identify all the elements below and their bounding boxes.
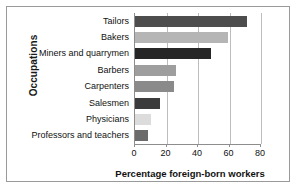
category-label: Tailors <box>16 13 132 29</box>
bar-row <box>135 79 261 95</box>
category-label: Salesmen <box>16 95 132 111</box>
bar <box>135 32 228 43</box>
bar <box>135 48 211 59</box>
bar <box>135 114 151 125</box>
x-tick-label: 20 <box>160 148 170 158</box>
bar-row <box>135 13 261 29</box>
x-axis-ticks: 020406080 <box>134 144 261 149</box>
category-label: Professors and teachers <box>16 128 132 144</box>
category-label-column: Tailors Bakers Miners and quarrymen Barb… <box>16 13 132 144</box>
x-tick-label: 0 <box>131 148 136 158</box>
x-tick-mark <box>260 144 261 147</box>
bar-row <box>135 128 261 144</box>
bar-row <box>135 46 261 62</box>
category-label: Barbers <box>16 62 132 78</box>
bar <box>135 98 160 109</box>
chart-figure: Occupations Tailors Bakers Miners and qu… <box>0 0 298 190</box>
bar <box>135 130 148 141</box>
bar-row <box>135 111 261 127</box>
bar-series <box>135 13 261 144</box>
bar-row <box>135 62 261 78</box>
plot-area <box>134 13 261 145</box>
bar <box>135 81 174 92</box>
x-tick-label: 60 <box>223 148 233 158</box>
category-label: Carpenters <box>16 79 132 95</box>
category-label: Bakers <box>16 29 132 45</box>
bar <box>135 65 176 76</box>
bar-row <box>135 95 261 111</box>
bar-row <box>135 29 261 45</box>
category-label: Physicians <box>16 111 132 127</box>
x-tick-mark <box>134 144 135 147</box>
x-axis-title: Percentage foreign-born workers <box>100 168 280 179</box>
bar <box>135 16 247 27</box>
x-tick-mark <box>229 144 230 147</box>
category-label: Miners and quarrymen <box>16 46 132 62</box>
x-tick-mark <box>166 144 167 147</box>
x-tick-label: 80 <box>255 148 265 158</box>
x-tick-mark <box>197 144 198 147</box>
x-tick-label: 40 <box>192 148 202 158</box>
